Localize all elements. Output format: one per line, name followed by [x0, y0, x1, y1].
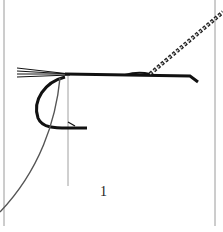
braided-tinsel — [150, 12, 223, 74]
hook-shank — [65, 74, 198, 82]
step-number-label: 1 — [100, 184, 107, 200]
tail-fibers — [17, 68, 70, 77]
hook-bend — [37, 77, 87, 128]
hook-barb — [68, 122, 75, 126]
bobbin-thread — [0, 78, 60, 212]
fly-tying-diagram — [0, 0, 223, 232]
